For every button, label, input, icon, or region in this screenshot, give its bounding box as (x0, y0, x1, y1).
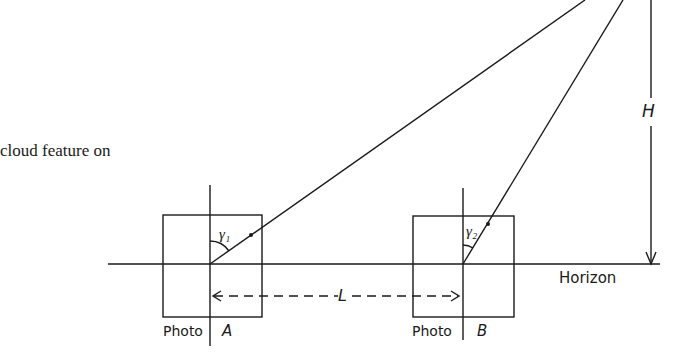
angle-2-label: γ₂ (466, 223, 477, 240)
sight-line-a (210, 0, 585, 264)
baseline-label: L (338, 286, 347, 305)
stereo-photogrammetry-diagram: cloud feature on H Horizon L Photo A Pho… (0, 0, 677, 353)
angle-1-label: γ₁ (219, 226, 230, 243)
photo-b-letter: B (477, 322, 487, 340)
photo-a-frame (163, 215, 262, 317)
caption-text: cloud feature on (0, 141, 110, 161)
height-label: H (642, 101, 655, 121)
angle-arc-2 (463, 245, 473, 248)
horizon-label: Horizon (559, 269, 616, 287)
photo-a-letter: A (222, 322, 232, 340)
feature-point-b (486, 222, 490, 226)
photo-a-label: Photo (163, 323, 203, 339)
baseline-arrow-right (451, 291, 459, 301)
feature-point-a (249, 233, 253, 237)
photo-b-label: Photo (412, 323, 452, 339)
